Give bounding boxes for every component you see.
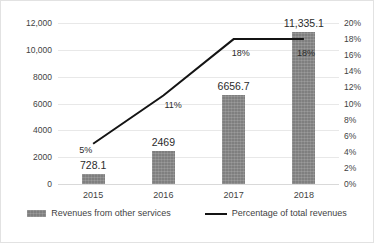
bar-data-label: 728.1 (56, 160, 130, 171)
bar-swatch-icon (27, 210, 46, 217)
gridline (58, 184, 339, 185)
right-axis-tick: 12% (344, 83, 361, 92)
legend-label-bars: Revenues from other services (51, 209, 171, 218)
left-axis-tick: 8000 (33, 73, 52, 82)
chart-legend: Revenues from other services Percentage … (1, 209, 373, 218)
combo-chart: 12,00010,00080006000400020000 20%18%16%1… (0, 0, 374, 243)
legend-item-bars: Revenues from other services (27, 209, 171, 218)
percentage-data-label: 18% (297, 49, 315, 58)
right-axis-tick: 10% (344, 100, 361, 109)
bar-data-label: 2469 (126, 137, 200, 148)
right-axis-tick: 2% (344, 164, 356, 173)
left-axis-tick: 10,000 (26, 46, 52, 55)
percentage-data-label: 18% (232, 49, 250, 58)
right-axis-tick: 16% (344, 51, 361, 60)
category-label: 2018 (267, 191, 341, 200)
right-axis-tick: 18% (344, 35, 361, 44)
left-axis-tick: 2000 (33, 153, 52, 162)
legend-label-line: Percentage of total revenues (232, 209, 347, 218)
left-axis-tick: 4000 (33, 126, 52, 135)
category-label: 2016 (126, 191, 200, 200)
line-swatch-icon (205, 213, 227, 215)
right-axis-tick: 0% (344, 180, 356, 189)
category-label: 2015 (56, 191, 130, 200)
percentage-data-label: 5% (79, 146, 92, 155)
legend-item-line: Percentage of total revenues (205, 209, 347, 218)
left-axis-tick: 12,000 (26, 19, 52, 28)
bar-data-label: 6656.7 (197, 81, 271, 92)
left-axis-tick: 0 (47, 180, 52, 189)
left-axis-tick: 6000 (33, 100, 52, 109)
percentage-line (93, 39, 304, 144)
right-axis-tick: 14% (344, 67, 361, 76)
right-axis-tick: 20% (344, 19, 361, 28)
bar-data-label: 11,335.1 (267, 18, 341, 29)
right-axis-tick: 4% (344, 148, 356, 157)
percentage-data-label: 11% (164, 101, 181, 110)
right-axis-tick: 8% (344, 116, 356, 125)
category-label: 2017 (197, 191, 271, 200)
right-axis-tick: 6% (344, 132, 356, 141)
